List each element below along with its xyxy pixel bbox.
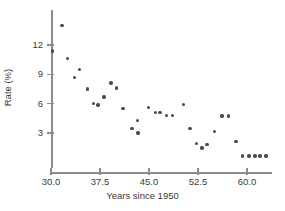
- y-axis-tick: [47, 74, 54, 75]
- data-point: [247, 154, 250, 157]
- y-axis-tick: [47, 44, 54, 45]
- x-axis-tick-label: 37.5: [80, 177, 120, 187]
- data-point: [241, 154, 244, 157]
- data-point: [195, 142, 198, 145]
- data-point: [253, 154, 256, 157]
- data-point: [171, 114, 174, 117]
- data-point: [78, 68, 81, 71]
- data-point: [213, 130, 216, 133]
- data-point: [165, 114, 168, 117]
- x-axis-tick: [246, 168, 247, 175]
- data-point: [234, 140, 237, 143]
- data-point: [227, 114, 230, 117]
- chart-plot-area: 3691230.037.545.052.560.0: [0, 0, 285, 211]
- x-axis-title: Years since 1950: [0, 190, 285, 201]
- data-point: [73, 76, 76, 79]
- data-point: [136, 119, 139, 122]
- data-point: [220, 114, 223, 117]
- y-axis-tick: [47, 132, 54, 133]
- y-axis-tick-label: 3: [21, 128, 43, 138]
- data-point: [121, 107, 124, 110]
- data-point: [154, 111, 157, 114]
- x-axis-tick: [99, 168, 100, 175]
- data-point: [96, 103, 99, 106]
- data-point: [158, 111, 161, 114]
- x-axis-tick-label: 60.0: [227, 177, 267, 187]
- data-point: [182, 103, 185, 106]
- y-axis-title: Rate (%): [2, 58, 13, 118]
- x-axis-tick-label: 52.5: [178, 177, 218, 187]
- data-point: [258, 154, 261, 157]
- x-axis-tick: [50, 168, 51, 175]
- data-point: [102, 95, 105, 98]
- data-point: [115, 86, 118, 89]
- y-axis-line: [51, 10, 53, 168]
- x-axis-line: [51, 172, 272, 174]
- data-point: [205, 143, 208, 146]
- y-axis-tick-label: 9: [21, 69, 43, 79]
- data-point: [66, 57, 69, 60]
- data-point: [147, 106, 150, 109]
- data-point: [264, 154, 267, 157]
- y-axis-tick-label: 12: [21, 40, 43, 50]
- data-point: [60, 24, 63, 27]
- data-point: [109, 81, 112, 84]
- x-axis-tick-label: 45.0: [129, 177, 169, 187]
- data-point: [136, 131, 139, 134]
- x-axis-tick: [197, 168, 198, 175]
- x-axis-tick: [148, 168, 149, 175]
- scatter-plot-screenshot: 3691230.037.545.052.560.0 Years since 19…: [0, 0, 285, 211]
- data-point: [92, 102, 95, 105]
- data-point: [200, 146, 203, 149]
- x-axis-tick-label: 30.0: [31, 177, 71, 187]
- data-point: [188, 127, 191, 130]
- data-point: [130, 127, 133, 130]
- data-point: [86, 87, 89, 90]
- y-axis-tick: [47, 103, 54, 104]
- data-point: [51, 49, 54, 52]
- y-axis-tick-label: 6: [21, 99, 43, 109]
